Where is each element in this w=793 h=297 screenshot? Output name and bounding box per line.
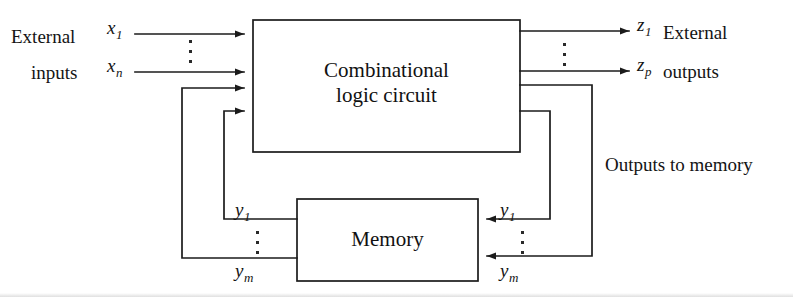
signal-name-y1-left: y [235, 199, 243, 220]
combinational-logic-block-label: Combinational logic circuit [253, 58, 520, 108]
signal-sub-zp: p [645, 64, 652, 79]
signal-sub-x1: 1 [116, 27, 123, 42]
external-outputs-label-line2: outputs [663, 62, 719, 81]
external-inputs-label-line2: inputs [31, 63, 77, 82]
ellipsis-outputs [563, 43, 566, 73]
signal-label-z1: z1 [637, 15, 651, 38]
signal-name-ym-left: y [235, 260, 243, 281]
ellipsis-memory-right [521, 231, 524, 261]
signal-name-y1-right: y [500, 199, 508, 220]
signal-label-ym-right: ym [500, 261, 518, 284]
signal-sub-z1: 1 [645, 24, 652, 39]
signal-sub-y1-right: 1 [509, 209, 516, 224]
signal-sub-y1-left: 1 [244, 209, 251, 224]
memory-block-label: Memory [297, 227, 478, 252]
signal-sub-ym-left: m [244, 270, 253, 285]
signal-label-y1-left: y1 [235, 200, 250, 223]
ellipsis-memory-left [256, 231, 259, 261]
ellipsis-inputs [189, 40, 192, 70]
signal-sub-ym-right: m [509, 270, 518, 285]
signal-label-x1: x1 [107, 18, 122, 41]
signal-label-xn: xn [107, 56, 122, 79]
signal-name-xn: x [107, 55, 115, 76]
signal-label-ym-left: ym [235, 261, 253, 284]
outputs-to-memory-label: Outputs to memory [605, 155, 753, 174]
signal-sub-xn: n [116, 65, 123, 80]
external-inputs-label-line1: External [11, 27, 75, 46]
figure-canvas: Combinational logic circuit Memory Exter… [0, 0, 793, 297]
signal-name-x1: x [107, 17, 115, 38]
signal-name-ym-right: y [500, 260, 508, 281]
signal-name-zp: z [637, 54, 644, 75]
block-diagram-svg [0, 0, 793, 297]
signal-label-zp: zp [637, 55, 651, 78]
external-outputs-label-line1: External [663, 23, 727, 42]
scan-bottom-edge [0, 293, 793, 297]
signal-name-z1: z [637, 14, 644, 35]
signal-label-y1-right: y1 [500, 200, 515, 223]
